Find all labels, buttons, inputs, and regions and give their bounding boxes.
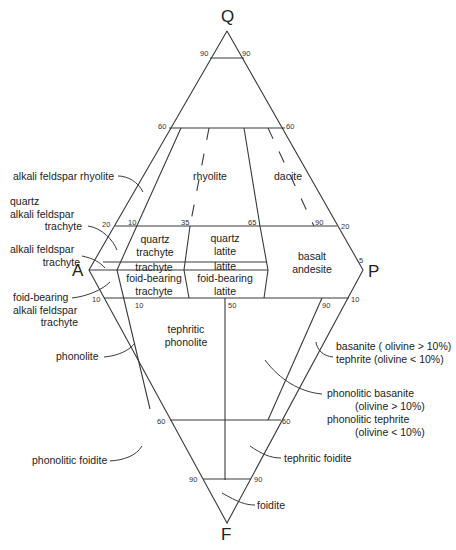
tick-f90-right: 90 [254,475,262,484]
tick-f10-right: 10 [351,295,359,304]
field-foid-bearing-trachyte: foid-bearing trachyte [122,272,186,297]
tick-q35: 35 [181,218,189,227]
field-quartz-trachyte: quartz trachyte [130,233,180,258]
tick-q90-left: 90 [200,49,208,58]
callout-phonolitic-basanite [265,360,322,394]
field-latite: latite [200,260,250,273]
tick-q10: 10 [128,218,136,227]
tick-q60-right: 60 [286,122,294,131]
tick-f90-inner: 90 [322,301,330,310]
field-quartz-latite: quartz latite [200,232,250,257]
tick-q65: 65 [248,218,256,227]
tick-f50: 50 [228,301,236,310]
tick-q90-right: 90 [242,49,250,58]
vertex-q: Q [221,8,234,26]
field-tephritic-phonolite: tephritic phonolite [158,323,214,348]
tick-q90: 90 [315,218,323,227]
tick-f10-inner: 10 [135,301,143,310]
tick-q20-right: 20 [341,222,349,231]
tick-p5: 5 [359,256,363,265]
tick-q60-left: 60 [158,122,166,131]
callout-foid-bearing-alkali-feldspar-trachyte-label: foid-bearing alkali feldspar trachyte [13,291,78,329]
callout-foidite [222,493,255,505]
field-dacite: dacite [266,170,310,183]
callout-phonolitic-foidite [110,446,142,461]
callout-phonolite-label: phonolite [56,350,99,363]
field-basalt-andesite: basalt andesite [286,250,338,275]
callout-alkali-feldspar-rhyolite-label: alkali feldspar rhyolite [13,170,114,183]
callout-phonolitic-foidite-label: phonolitic foidite [32,454,107,467]
tick-q20-left: 20 [102,220,110,229]
tick-f10-left: 10 [92,295,100,304]
callout-alkali-feldspar-trachyte-label: alkali feldspar trachyte [10,243,80,268]
field-foid-bearing-latite: foid-bearing latite [192,272,258,297]
callout-tephrite-label: tephrite (olivine < 10%) [336,353,444,366]
vertex-p: P [368,263,379,281]
callout-foidite-label: foidite [257,499,285,512]
callout-phonolitic-tephrite-label: phonolitic tephrite (olivine < 10%) [327,413,425,438]
callout-phonolitic-basanite-label: phonolitic basanite (olivine > 10%) [327,387,425,412]
tick-f60-right: 60 [282,417,290,426]
callout-basanite-label: basanite ( olivine > 10%) [336,340,451,353]
tick-f90-left: 90 [189,475,197,484]
callout-basanite [316,342,333,357]
tick-f60-left: 60 [157,417,165,426]
field-rhyolite: rhyolite [184,170,236,183]
callout-quartz-alkali-feldspar-trachyte-label: quartz alkali feldspar trachyte [10,195,82,233]
p90-lower-line [268,298,322,420]
vertex-f: F [221,526,231,544]
callout-tephritic-foidite-label: tephritic foidite [284,452,352,465]
